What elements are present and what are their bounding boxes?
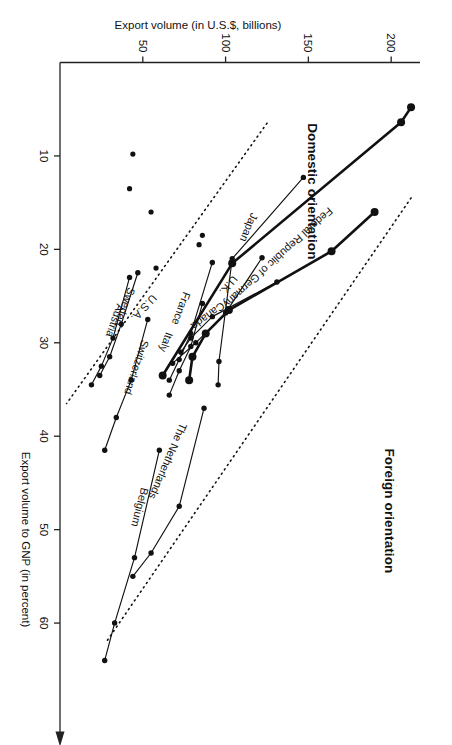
data-point [200, 232, 205, 237]
data-point [196, 242, 201, 247]
data-point [107, 354, 112, 359]
data-point [127, 186, 132, 191]
reference-lines-group [67, 123, 411, 642]
data-point [167, 377, 172, 382]
series-line [189, 211, 374, 379]
x-axis-ticks: 102030405060 [38, 149, 60, 629]
x-tick-label: 30 [38, 336, 50, 349]
extra-data-points [127, 151, 205, 270]
data-point [210, 259, 215, 264]
data-point [167, 392, 172, 397]
series-label-switzerland: Switzerland [122, 338, 151, 396]
data-point [201, 405, 206, 410]
data-point [157, 447, 162, 452]
data-point [216, 358, 221, 363]
data-point [371, 207, 379, 215]
y-tick-label: 50 [137, 39, 149, 52]
data-point [177, 368, 182, 373]
x-tick-label: 60 [38, 616, 50, 629]
x-axis-arrow-icon [56, 731, 65, 745]
data-point [153, 265, 158, 270]
y-tick-label: 150 [302, 33, 314, 52]
data-point [145, 316, 150, 321]
reference-line-upper-divider [106, 197, 411, 641]
data-point [148, 209, 153, 214]
data-point [188, 343, 193, 348]
y-axis-ticks: 50100150200 [137, 33, 397, 62]
data-point [130, 151, 135, 156]
series-label-italy: Italy [157, 330, 175, 354]
series-line [163, 107, 411, 375]
series-label-belgium: Belgium [129, 486, 151, 527]
region-titles-group: Foreign orientation Domestic orientation [305, 123, 396, 573]
x-tick-label: 40 [38, 429, 50, 442]
data-point [259, 255, 264, 260]
x-axis-title: Export volume to GNP (in percent) [20, 451, 32, 627]
y-tick-label: 200 [385, 33, 397, 52]
data-point [102, 447, 107, 452]
chart-plot-surface: 102030405060 50100150200 U.S.A.JapanFede… [0, 0, 452, 745]
region-title-foreign: Foreign orientation [382, 448, 397, 573]
region-title-domestic: Domestic orientation [305, 123, 320, 259]
rotated-figure-container: 102030405060 50100150200 U.S.A.JapanFede… [0, 0, 452, 745]
series-label-france: France [170, 290, 193, 326]
data-point [99, 363, 104, 368]
series-label-the-netherlands: The Netherlands [146, 421, 189, 501]
y-tick-label: 100 [220, 33, 232, 52]
data-point [102, 657, 107, 662]
reference-line-lower-divider [67, 123, 267, 403]
chart-svg: 102030405060 50100150200 U.S.A.JapanFede… [0, 0, 452, 745]
x-tick-label: 20 [38, 242, 50, 255]
data-point [135, 270, 140, 275]
series-label-japan: Japan [238, 211, 261, 243]
data-point [177, 356, 182, 361]
y-axis-title: Export volume (in U.S.$, billions) [115, 18, 282, 30]
data-point [132, 554, 137, 559]
axes-group [56, 62, 421, 745]
data-point [177, 503, 182, 508]
data-point [112, 620, 117, 625]
axis-titles-group: Export volume to GNP (in percent) Export… [20, 18, 282, 627]
data-point [215, 382, 220, 387]
x-tick-label: 50 [38, 523, 50, 536]
data-point [114, 414, 119, 419]
data-point [407, 103, 415, 111]
data-point [274, 279, 279, 284]
x-tick-label: 10 [38, 149, 50, 162]
data-point [127, 274, 132, 279]
data-point [185, 376, 193, 384]
